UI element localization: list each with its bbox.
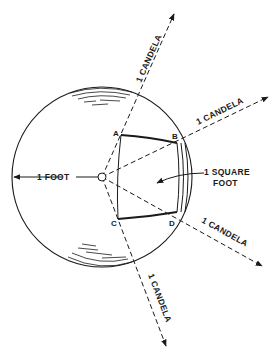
ray-down-label: 1 CANDELA	[146, 272, 174, 324]
ray-up-label: 1 CANDELA	[134, 33, 164, 84]
square-foot-patch	[117, 135, 188, 219]
candela-sphere-diagram: 1 FOOT A B C D 1 SQUARE FOOT 1 CANDE	[0, 0, 275, 354]
point-label-a: A	[113, 129, 119, 138]
area-label-line2: FOOT	[213, 178, 238, 188]
area-label-line1: 1 SQUARE	[204, 167, 250, 177]
ray-right-upper-label: 1 CANDELA	[194, 95, 245, 126]
ray-right-upper	[102, 97, 268, 177]
top-shading-icon	[70, 88, 132, 105]
radius-label: 1 FOOT	[37, 172, 70, 182]
bottom-shading-icon	[68, 244, 132, 266]
ray-right-lower-label: 1 CANDELA	[200, 215, 250, 249]
point-label-d: D	[169, 219, 175, 228]
ray-right-lower	[102, 177, 262, 266]
area-pointer-arrow	[157, 173, 204, 183]
point-label-b: B	[172, 132, 178, 141]
ray-up	[102, 14, 174, 177]
point-label-c: C	[111, 219, 117, 228]
point-source-icon	[98, 173, 106, 181]
